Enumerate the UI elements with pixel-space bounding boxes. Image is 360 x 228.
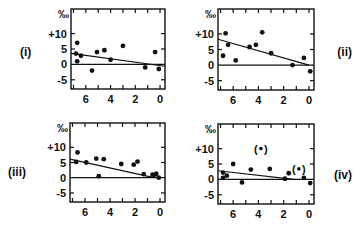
data-point [267, 167, 272, 172]
data-point [131, 162, 136, 167]
panel-1: +1050-5‰6420(i) [20, 8, 165, 105]
data-point [308, 181, 313, 186]
data-point [156, 67, 161, 72]
y-tick-label: 0 [61, 58, 67, 70]
data-point [221, 53, 226, 58]
plot-frame [71, 9, 165, 89]
panel-label: (iii) [8, 165, 26, 179]
data-point [233, 58, 238, 63]
data-point [290, 63, 295, 68]
data-point [96, 174, 101, 179]
x-tick-label: 4 [255, 94, 262, 106]
x-tick-label: 4 [107, 206, 114, 218]
x-tick-label: 4 [255, 208, 262, 220]
data-point [74, 51, 79, 56]
x-tick-label: 6 [83, 93, 89, 105]
data-point [269, 51, 274, 56]
bracketed-data-point [297, 167, 301, 171]
y-tick-label: +10 [48, 28, 67, 40]
data-point [94, 156, 99, 161]
data-point [95, 50, 100, 55]
plot-frame [218, 9, 314, 90]
data-point [231, 162, 236, 167]
data-point [74, 159, 79, 164]
data-point [240, 180, 245, 185]
data-point [248, 167, 253, 172]
svg-text:(: ( [292, 163, 296, 175]
data-point [135, 159, 140, 164]
data-point [153, 50, 158, 55]
regression-line [70, 159, 154, 178]
y-tick-label: 0 [208, 59, 214, 71]
data-point [253, 42, 258, 47]
x-tick-label: 2 [281, 208, 287, 220]
x-tick-label: 2 [132, 93, 138, 105]
panel-2: +1050-5‰6420(ii) [195, 8, 352, 106]
x-tick-label: 0 [306, 94, 312, 106]
x-tick-label: 6 [82, 206, 88, 218]
y-tick-label: +10 [195, 28, 214, 40]
y-tick-label: 5 [208, 158, 214, 170]
data-point [247, 45, 252, 50]
data-point [119, 162, 124, 167]
data-point [143, 65, 148, 70]
data-point [121, 44, 126, 49]
x-tick-label: 2 [132, 206, 138, 218]
data-point [283, 176, 288, 181]
data-point [102, 48, 107, 53]
data-point [108, 57, 113, 62]
data-point [84, 160, 89, 165]
panel-label: (iv) [334, 168, 352, 182]
x-tick-label: 6 [230, 208, 236, 220]
data-point [90, 68, 95, 73]
x-tick-label: 0 [157, 93, 163, 105]
x-tick-label: 2 [281, 94, 287, 106]
unit-label: ‰ [205, 123, 216, 135]
data-point [154, 171, 159, 176]
svg-text:(: ( [254, 143, 258, 155]
panel-4: +1050-5‰6420()()(iv) [195, 123, 352, 220]
x-tick-label: 4 [108, 93, 115, 105]
x-tick-label: 0 [306, 208, 312, 220]
data-point [78, 53, 83, 58]
panel-3: +1050-5‰6420(iii) [8, 122, 165, 218]
x-tick-label: 0 [157, 206, 163, 218]
unit-label: ‰ [205, 8, 216, 20]
data-point [156, 175, 161, 180]
data-point [75, 150, 80, 155]
data-point [308, 69, 313, 74]
panel-label: (i) [20, 45, 31, 59]
y-tick-label: -5 [204, 189, 214, 201]
y-tick-label: 5 [60, 157, 66, 169]
chart-grid: +1050-5‰6420(i)+1050-5‰6420(ii)+1050-5‰6… [0, 0, 360, 228]
data-point [286, 171, 291, 176]
y-tick-label: +10 [47, 141, 66, 153]
y-tick-label: 0 [60, 172, 66, 184]
data-point [223, 31, 228, 36]
x-tick-label: 6 [230, 94, 236, 106]
y-tick-label: -5 [204, 75, 214, 87]
y-tick-label: +10 [195, 143, 214, 155]
panel-label: (ii) [337, 45, 352, 59]
regression-line [218, 39, 309, 65]
data-point [75, 59, 80, 64]
data-point [260, 30, 265, 35]
y-tick-label: 5 [208, 44, 214, 56]
y-tick-label: -5 [56, 187, 66, 199]
data-point [141, 172, 146, 177]
data-point [226, 42, 231, 47]
unit-label: ‰ [57, 122, 68, 134]
y-tick-label: -5 [57, 74, 67, 86]
data-point [224, 173, 229, 178]
svg-text:): ) [302, 163, 306, 175]
data-point [301, 175, 306, 180]
bracketed-data-point [259, 147, 263, 151]
regression-line [218, 171, 294, 180]
data-point [301, 56, 306, 61]
unit-label: ‰ [58, 8, 69, 20]
data-point [221, 170, 226, 175]
svg-text:): ) [264, 143, 268, 155]
data-point [75, 40, 80, 45]
data-point [101, 157, 106, 162]
y-tick-label: 5 [61, 43, 67, 55]
